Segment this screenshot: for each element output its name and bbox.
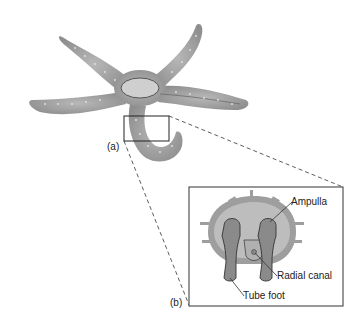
panel-a-label: (a) bbox=[107, 141, 119, 152]
label-radial-canal: Radial canal bbox=[277, 270, 332, 281]
panel-b-label: (b) bbox=[170, 297, 182, 308]
starfish-diagram bbox=[0, 0, 363, 334]
diagram-canvas: (a) (b) Ampulla Radial canal Tube foot bbox=[0, 0, 363, 334]
starfish-body bbox=[20, 20, 260, 170]
label-ampulla: Ampulla bbox=[291, 196, 327, 207]
label-tube-foot: Tube foot bbox=[243, 290, 285, 301]
